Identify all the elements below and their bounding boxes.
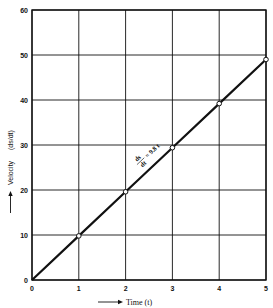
data-point-marker: [77, 234, 82, 239]
data-point-marker: [123, 190, 128, 195]
series-line: [32, 60, 266, 281]
x-axis-label: Time (t): [126, 298, 152, 307]
equation-rhs: = 9.8 t: [143, 141, 161, 158]
data-point-marker: [217, 101, 222, 106]
y-axis-label-group: Velocity (ds/dt): [7, 130, 15, 213]
y-tick-label: 60: [20, 7, 28, 14]
data-point-marker: [170, 145, 175, 150]
x-tick-label: 0: [30, 285, 34, 292]
y-tick-label: 40: [20, 97, 28, 104]
y-axis-label-word: Velocity: [7, 160, 15, 185]
y-axis-label-expr: (ds/dt): [7, 130, 15, 150]
x-tick-label: 5: [264, 285, 268, 292]
velocity-time-chart: 012345 0102030405060 Time (t) Velocity (…: [0, 0, 273, 308]
y-tick-label: 10: [20, 232, 28, 239]
x-tick-label: 1: [77, 285, 81, 292]
arrow-up-icon: [8, 191, 12, 196]
equation-annotation: ds dt = 9.8 t: [131, 138, 163, 170]
y-tick-label: 0: [24, 277, 28, 284]
y-axis-ticks: 0102030405060: [20, 7, 28, 284]
x-axis-ticks: 012345: [30, 285, 268, 292]
grid-lines: [32, 10, 266, 280]
arrow-right-icon: [118, 300, 123, 304]
data-series: [32, 57, 268, 280]
x-tick-label: 3: [170, 285, 174, 292]
y-tick-label: 50: [20, 52, 28, 59]
x-tick-label: 4: [217, 285, 221, 292]
y-tick-label: 20: [20, 187, 28, 194]
x-tick-label: 2: [124, 285, 128, 292]
x-axis-label-group: Time (t): [98, 298, 152, 307]
y-tick-label: 30: [20, 142, 28, 149]
data-point-marker: [264, 57, 269, 62]
